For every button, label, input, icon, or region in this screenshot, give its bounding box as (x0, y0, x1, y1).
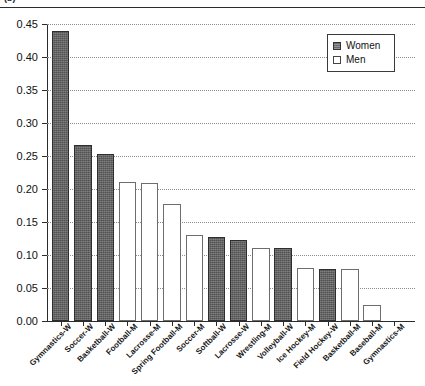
y-tick-label: 0.40 (0, 52, 38, 63)
y-tick-label: 0.15 (0, 217, 38, 228)
figure-caption-strip: (b) (0, 0, 425, 8)
gridline (47, 90, 415, 91)
y-tick (42, 156, 47, 157)
bar-gymnastics-w (52, 31, 69, 321)
bar-soccer-m (186, 235, 203, 321)
gridline (47, 24, 415, 25)
y-tick (42, 90, 47, 91)
y-tick (42, 57, 47, 58)
y-tick-label: 0.35 (0, 85, 38, 96)
x-tick-labels-group: Gymnastics-WSoccer-WBasketball-WFootball… (47, 322, 425, 386)
y-tick-label: 0.20 (0, 184, 38, 195)
bar-volleyball-w (274, 248, 291, 321)
bar-soccer-w (74, 145, 91, 321)
legend-swatch-women-icon (333, 42, 341, 50)
bar-basketball-w (97, 154, 114, 321)
legend-entry-men: Men (333, 53, 389, 67)
y-tick-label: 0.25 (0, 151, 38, 162)
bar-baseball-m (363, 305, 380, 322)
bar-basketball-m (341, 269, 358, 321)
y-tick (42, 123, 47, 124)
y-tick-label: 0.00 (0, 316, 38, 327)
y-tick-label: 0.30 (0, 118, 38, 129)
legend-label-women: Women (346, 41, 380, 51)
x-tick-label: Gymnastics-M (362, 322, 407, 367)
y-tick-label: 0.05 (0, 283, 38, 294)
legend-label-men: Men (346, 55, 365, 65)
bar-wrestling-m (252, 248, 269, 321)
gridline (47, 123, 415, 124)
bar-ice-hockey-m (297, 268, 314, 321)
bar-chart-figure: (b) 0.000.050.100.150.200.250.300.350.40… (0, 0, 425, 386)
y-tick (42, 222, 47, 223)
bar-softball-w (208, 237, 225, 321)
caption-divider (0, 7, 425, 8)
legend-swatch-men-icon (333, 56, 341, 64)
y-tick-label: 0.45 (0, 19, 38, 30)
bar-football-m (119, 182, 136, 321)
y-axis-line (47, 24, 48, 322)
y-tick (42, 288, 47, 289)
chart-legend: Women Men (327, 34, 395, 72)
bar-field-hockey-w (319, 269, 336, 321)
y-tick (42, 255, 47, 256)
y-tick-label: 0.10 (0, 250, 38, 261)
y-tick (42, 189, 47, 190)
figure-caption: (b) (4, 0, 16, 3)
legend-entry-women: Women (333, 39, 389, 53)
bar-lacrosse-w (230, 240, 247, 321)
bar-spring-football-m (163, 204, 180, 321)
y-tick (42, 24, 47, 25)
bar-lacrosse-m (141, 183, 158, 321)
